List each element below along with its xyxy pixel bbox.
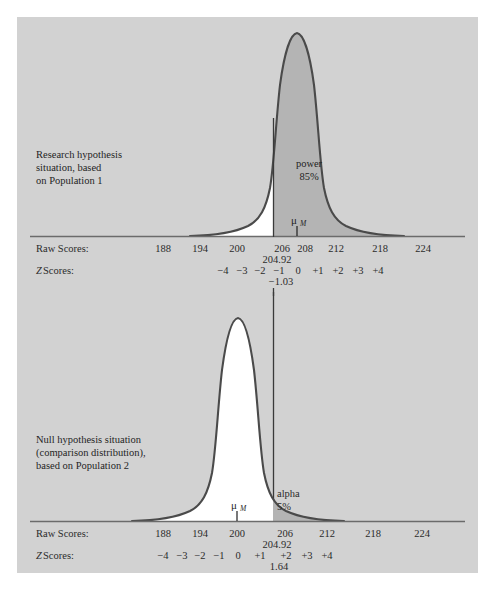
bottom-raw-tick-212: 212 xyxy=(319,528,335,539)
top-cutoff-raw-value: 204.92 xyxy=(263,254,292,265)
top-caption-line-2: situation, based xyxy=(36,162,102,173)
bottom-curve-fill-unshaded xyxy=(132,318,344,521)
top-power-label: power xyxy=(296,158,323,169)
bottom-cutoff-raw-value: 204.92 xyxy=(263,539,292,550)
statistics-figure: μ M power 85% Research hypothesis situat… xyxy=(0,0,497,591)
bottom-chart-null-hypothesis: μ M alpha 5% Null hypothesis situation (… xyxy=(30,318,465,572)
top-chart-research-hypothesis: μ M power 85% Research hypothesis situat… xyxy=(30,33,465,287)
top-z-scores-axis-label-italic: Z xyxy=(36,265,42,276)
bottom-raw-tick-224: 224 xyxy=(414,528,431,539)
top-z-scores-axis-label: Scores: xyxy=(43,265,74,276)
bottom-raw-tick-206: 206 xyxy=(277,528,293,539)
top-power-value: 85% xyxy=(299,171,319,182)
bottom-z-tick-p2: +2 xyxy=(280,550,291,561)
bottom-z-scores-axis-label: Scores: xyxy=(43,550,74,561)
bottom-raw-tick-188: 188 xyxy=(155,528,171,539)
top-raw-tick-224: 224 xyxy=(415,243,432,254)
top-z-tick-p1: +1 xyxy=(312,265,323,276)
bottom-caption-line-3: based on Population 2 xyxy=(36,460,129,471)
top-mean-subscript: M xyxy=(299,219,307,228)
bottom-caption-line-1: Null hypothesis situation xyxy=(36,434,142,445)
bottom-raw-scores-axis-label: Raw Scores: xyxy=(36,528,89,539)
bottom-z-tick-p3: +3 xyxy=(301,550,312,561)
top-z-tick-p3: +3 xyxy=(352,265,363,276)
top-raw-tick-218: 218 xyxy=(372,243,388,254)
bottom-z-tick-m3: −3 xyxy=(176,550,187,561)
top-raw-tick-194: 194 xyxy=(192,243,209,254)
top-curve-fill-shaded xyxy=(190,33,404,236)
bottom-alpha-label: alpha xyxy=(277,488,300,499)
top-raw-tick-212: 212 xyxy=(328,243,344,254)
top-z-tick-m4: −4 xyxy=(217,265,229,276)
bottom-mean-label: μ xyxy=(231,499,237,511)
bottom-z-tick-m2: −2 xyxy=(194,550,205,561)
bottom-z-scores-axis-label-italic: Z xyxy=(36,550,42,561)
bottom-z-tick-p1: +1 xyxy=(254,550,265,561)
top-raw-tick-188: 188 xyxy=(155,243,171,254)
top-mean-label: μ xyxy=(291,214,297,226)
top-raw-tick-206: 206 xyxy=(274,243,290,254)
top-z-tick-0: 0 xyxy=(295,265,300,276)
top-caption-line-1: Research hypothesis xyxy=(36,149,122,160)
bottom-caption-line-2: (comparison distribution), xyxy=(36,447,146,459)
top-z-tick-m1: −1 xyxy=(273,265,284,276)
top-z-tick-p4: +4 xyxy=(372,265,384,276)
bottom-alpha-value: 5% xyxy=(277,501,291,512)
bottom-raw-tick-200: 200 xyxy=(229,528,245,539)
top-cutoff-z-value: −1.03 xyxy=(269,276,293,287)
bottom-cutoff-z-value: 1.64 xyxy=(270,561,289,572)
bottom-z-tick-p4: +4 xyxy=(321,550,333,561)
top-z-tick-m3: −3 xyxy=(236,265,247,276)
bottom-mean-subscript: M xyxy=(239,504,247,513)
bottom-z-tick-m1: −1 xyxy=(213,550,224,561)
top-z-tick-p2: +2 xyxy=(332,265,343,276)
top-raw-tick-200: 200 xyxy=(229,243,245,254)
bottom-z-tick-0: 0 xyxy=(235,550,240,561)
top-raw-tick-208: 208 xyxy=(297,243,313,254)
bottom-raw-tick-194: 194 xyxy=(192,528,209,539)
bottom-raw-tick-218: 218 xyxy=(365,528,381,539)
top-caption-line-3: on Population 1 xyxy=(36,175,103,186)
top-raw-scores-axis-label: Raw Scores: xyxy=(36,243,89,254)
bottom-z-tick-m4: −4 xyxy=(157,550,169,561)
top-z-tick-m2: −2 xyxy=(254,265,265,276)
